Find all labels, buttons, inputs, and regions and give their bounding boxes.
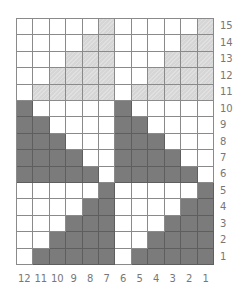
chart-cell (17, 183, 33, 199)
chart-cell (99, 101, 115, 117)
chart-cell (33, 52, 49, 68)
chart-cell (66, 183, 82, 199)
chart-cell (198, 85, 214, 101)
chart-cell (33, 19, 49, 35)
chart-cell (198, 68, 214, 84)
chart-cell (115, 101, 131, 117)
chart-cell (148, 35, 164, 51)
chart-cell (115, 68, 131, 84)
chart-cell (132, 85, 148, 101)
chart-cell (33, 134, 49, 150)
chart-cell (99, 249, 115, 265)
chart-cell (66, 216, 82, 232)
chart-cell (33, 232, 49, 248)
chart-cell (132, 216, 148, 232)
chart-cell (83, 249, 99, 265)
chart-cell (50, 52, 66, 68)
chart-cell (33, 167, 49, 183)
chart-cell (33, 183, 49, 199)
chart-cell (17, 199, 33, 215)
chart-cell (83, 134, 99, 150)
chart-cell (50, 134, 66, 150)
chart-cell (99, 183, 115, 199)
chart-cell (148, 68, 164, 84)
chart-cell (198, 183, 214, 199)
chart-cell (165, 232, 181, 248)
chart-cell (165, 167, 181, 183)
row-label: 14 (220, 38, 233, 48)
colorwork-chart-grid (16, 18, 214, 265)
chart-cell (198, 249, 214, 265)
chart-cell (115, 150, 131, 166)
chart-cell (165, 216, 181, 232)
chart-cell (99, 35, 115, 51)
chart-cell (165, 150, 181, 166)
chart-cell (115, 134, 131, 150)
chart-cell (148, 199, 164, 215)
chart-cell (198, 150, 214, 166)
chart-cell (165, 249, 181, 265)
row-label: 13 (220, 54, 233, 64)
chart-cell (132, 232, 148, 248)
chart-cell (198, 52, 214, 68)
chart-cell (115, 249, 131, 265)
row-label: 6 (220, 169, 226, 179)
chart-cell (132, 199, 148, 215)
chart-cell (198, 101, 214, 117)
chart-cell (17, 117, 33, 133)
chart-cell (99, 19, 115, 35)
row-label: 3 (220, 219, 226, 229)
column-label: 3 (165, 273, 182, 284)
chart-cell (148, 183, 164, 199)
chart-cell (132, 101, 148, 117)
column-label: 8 (82, 273, 99, 284)
row-label: 10 (220, 104, 233, 114)
chart-cell (132, 35, 148, 51)
column-label: 5 (132, 273, 149, 284)
chart-cell (33, 150, 49, 166)
chart-cell (99, 216, 115, 232)
chart-cell (198, 167, 214, 183)
chart-cell (181, 117, 197, 133)
row-label: 4 (220, 202, 226, 212)
chart-cell (181, 101, 197, 117)
chart-cell (115, 35, 131, 51)
column-label: 4 (148, 273, 165, 284)
chart-cell (50, 19, 66, 35)
chart-cell (181, 134, 197, 150)
chart-cell (83, 117, 99, 133)
chart-cell (181, 183, 197, 199)
chart-cell (33, 101, 49, 117)
chart-cell (181, 19, 197, 35)
chart-cell (50, 150, 66, 166)
chart-cell (17, 232, 33, 248)
chart-cell (148, 232, 164, 248)
chart-cell (165, 52, 181, 68)
chart-cell (66, 101, 82, 117)
chart-cell (33, 199, 49, 215)
chart-cell (181, 232, 197, 248)
chart-cell (148, 216, 164, 232)
row-label: 5 (220, 186, 226, 196)
chart-cell (83, 167, 99, 183)
chart-cell (165, 117, 181, 133)
row-label: 12 (220, 71, 233, 81)
chart-cell (50, 183, 66, 199)
chart-cell (181, 35, 197, 51)
chart-cell (83, 183, 99, 199)
chart-cell (50, 199, 66, 215)
chart-cell (99, 199, 115, 215)
chart-cell (132, 134, 148, 150)
chart-cell (132, 52, 148, 68)
chart-cell (83, 68, 99, 84)
row-label: 11 (220, 87, 233, 97)
chart-cell (66, 134, 82, 150)
chart-cell (181, 52, 197, 68)
chart-cell (50, 85, 66, 101)
chart-cell (33, 117, 49, 133)
row-label: 8 (220, 137, 226, 147)
chart-cell (99, 85, 115, 101)
chart-cell (17, 134, 33, 150)
chart-cell (50, 68, 66, 84)
column-label: 6 (115, 273, 132, 284)
